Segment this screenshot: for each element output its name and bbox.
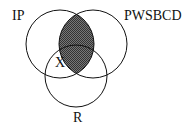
venn-diagram: IP PWSBCD R X (0, 0, 191, 130)
label-pwsbcd: PWSBCD (124, 8, 182, 23)
label-ip: IP (12, 8, 25, 23)
label-r: R (73, 110, 83, 125)
label-x: X (55, 55, 65, 70)
